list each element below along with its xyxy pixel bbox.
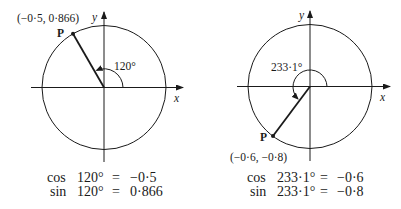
right-point-coords: (−0·6, −0·8) [230, 151, 287, 164]
left-eq-sin-value: 0·866 [130, 184, 163, 199]
left-angle-label: 120° [114, 60, 136, 72]
left-eq-cos-angle: 120° [77, 170, 104, 185]
right-x-axis-label: x [379, 91, 386, 103]
right-y-axis-label: y [298, 9, 305, 22]
right-eq-cos-equals: = [320, 170, 328, 185]
left-eq-cos-equals: = [112, 170, 120, 185]
left-point-p [71, 32, 75, 36]
right-eq-sin-angle: 233·1° [277, 184, 315, 199]
right-unit-circle-diagram: x y 233·1° P (−0·6, −0·8) cos 233·1° = −… [230, 9, 390, 199]
right-eq-cos-angle: 233·1° [277, 170, 315, 185]
left-radius-line [73, 34, 104, 88]
right-eq-cos-value: −0·6 [337, 170, 364, 185]
right-eq-sin-equals: = [320, 184, 328, 199]
left-y-axis-label: y [91, 11, 98, 24]
right-eq-sin-fn: sin [250, 184, 266, 199]
right-eq-sin-value: −0·8 [337, 184, 364, 199]
right-point-label: P [260, 131, 267, 143]
left-eq-sin-angle: 120° [77, 184, 104, 199]
left-eq-sin-fn: sin [50, 184, 66, 199]
right-equations: cos 233·1° = −0·6 sin 233·1° = −0·8 [247, 170, 364, 199]
left-eq-cos-value: −0·5 [130, 170, 157, 185]
left-eq-sin-equals: = [112, 184, 120, 199]
left-point-label: P [57, 27, 64, 39]
right-angle-label: 233·1° [271, 61, 303, 73]
left-equations: cos 120° = −0·5 sin 120° = 0·866 [47, 170, 163, 199]
left-point-coords: (−0·5, 0·866) [17, 12, 79, 25]
right-radius-line [273, 87, 310, 137]
right-eq-cos-fn: cos [247, 170, 266, 185]
unit-circle-figure: x y 120° P (−0·5, 0·866) cos 120° = −0·5… [0, 0, 401, 209]
left-unit-circle-diagram: x y 120° P (−0·5, 0·866) cos 120° = −0·5… [17, 11, 183, 199]
left-eq-cos-fn: cos [47, 170, 66, 185]
right-point-p [271, 134, 275, 138]
left-x-axis-label: x [173, 92, 180, 104]
